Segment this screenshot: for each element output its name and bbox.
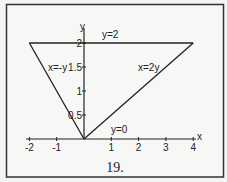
- y-tick-label: 1.5: [68, 62, 82, 73]
- label-y-equals-0: y=0: [111, 124, 128, 135]
- x-tick-label: 2: [136, 142, 142, 153]
- label-y-equals-2: y=2: [102, 29, 119, 40]
- x-tick-label: -2: [25, 142, 34, 153]
- x-tick-label: 1: [109, 142, 115, 153]
- y-tick-label: 0.5: [68, 110, 82, 121]
- y-axis-label: y: [80, 21, 85, 32]
- label-x-equals-neg-y: x=-y: [48, 62, 67, 73]
- y-tick-label: 1: [76, 86, 82, 97]
- x-tick-label: -1: [52, 142, 61, 153]
- x-tick-label: 4: [190, 142, 196, 153]
- figure-panel: -2 -1 1 2 3 4 0.5 1 1.5 2 x y y=2 x=-y x…: [0, 0, 227, 182]
- x-axis-label: x: [197, 131, 202, 142]
- x-tick-label: 3: [163, 142, 169, 153]
- figure-caption: 19.: [106, 160, 124, 175]
- label-x-equals-2y: x=2y: [138, 62, 159, 73]
- y-tick-label: 2: [76, 38, 82, 49]
- region-diagram: -2 -1 1 2 3 4 0.5 1 1.5 2 x y y=2 x=-y x…: [0, 0, 227, 182]
